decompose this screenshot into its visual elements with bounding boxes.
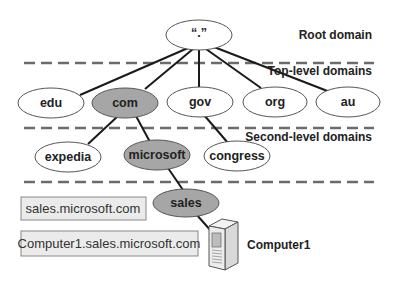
svg-text:congress: congress [209, 149, 265, 163]
svg-text:com: com [112, 96, 138, 110]
svg-text:Computer1.sales.microsoft.com: Computer1.sales.microsoft.com [18, 236, 201, 251]
server-icon [209, 219, 238, 270]
tld-node-gov: gov [167, 87, 233, 117]
root-domain-node: “.” [166, 20, 232, 50]
svg-text:edu: edu [40, 96, 62, 110]
dns-hierarchy-diagram: “.” edu com gov org au expedia microsoft… [0, 0, 399, 285]
svg-text:sales.microsoft.com: sales.microsoft.com [26, 201, 141, 216]
svg-text:“.”: “.” [191, 26, 207, 40]
svg-text:au: au [341, 95, 356, 109]
fqdn-box-sales: sales.microsoft.com [21, 197, 146, 220]
host-label-computer1: Computer1 [247, 238, 311, 252]
label-root-domain: Root domain [299, 28, 372, 42]
svg-text:gov: gov [189, 95, 211, 109]
tld-node-org: org [243, 87, 307, 117]
tld-node-au: au [316, 87, 380, 117]
svg-text:expedia: expedia [45, 150, 93, 164]
label-top-level-domains: Top-level domains [268, 64, 373, 78]
tld-node-edu: edu [18, 88, 84, 118]
label-second-level-domains: Second-level domains [245, 130, 372, 144]
subdomain-node-sales: sales [153, 189, 219, 217]
sld-node-expedia: expedia [35, 142, 101, 172]
sld-node-microsoft: microsoft [124, 140, 190, 170]
svg-text:microsoft: microsoft [129, 148, 187, 162]
fqdn-box-computer1: Computer1.sales.microsoft.com [18, 231, 201, 256]
tld-node-com: com [92, 88, 158, 118]
svg-text:sales: sales [170, 196, 201, 210]
svg-text:org: org [265, 95, 285, 109]
sld-node-congress: congress [204, 141, 270, 171]
